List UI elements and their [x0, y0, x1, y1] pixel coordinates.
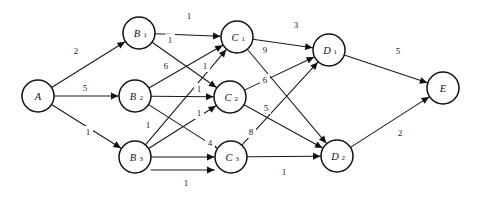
arrowhead-B1-to-C2 — [208, 80, 216, 87]
arrowhead-A-to-B3 — [113, 141, 121, 148]
node-subscript-D2: 2 — [342, 154, 346, 162]
edge-weight-B3-to-C1: 1 — [203, 61, 208, 71]
node-label-B2: B — [130, 91, 137, 102]
node-label-B1: B — [134, 28, 141, 39]
node-label-B3: B — [130, 152, 137, 163]
node-label-E: E — [439, 83, 447, 94]
edge-weight-B1-to-C1: 1 — [187, 11, 192, 21]
edge-weight-D2-to-E: 2 — [398, 128, 403, 138]
node-B2[interactable]: B2 — [119, 80, 151, 112]
node-label-A: A — [34, 91, 42, 102]
edge-weight-A-to-B3: 1 — [86, 127, 91, 137]
edge-weight-B2-to-C1: 6 — [164, 61, 169, 71]
node-subscript-C3: 3 — [236, 155, 240, 163]
edge-D2-to-E — [350, 97, 429, 147]
arrowhead-B3-to-C3 — [207, 154, 215, 161]
arrowhead-A-to-B2 — [111, 93, 119, 100]
edge-C2-to-D1 — [244, 57, 314, 90]
arrowhead-D1-to-E — [419, 77, 427, 83]
node-C2[interactable]: C2 — [214, 81, 246, 113]
edge-weight-C1-to-D1: 3 — [294, 20, 299, 30]
arrowhead-A-to-B1 — [117, 42, 125, 49]
network-diagram: 25111611114139658152 AB1B2B3C1C2C3D1D2E — [0, 0, 477, 197]
edge-A-to-B1 — [52, 42, 125, 88]
edge-weight-C2-to-D2: 5 — [264, 103, 269, 113]
edge-weight-C3-to-D1: 8 — [249, 127, 254, 137]
edge-weight-B1-to-C2: 1 — [168, 35, 173, 45]
edge-weight-A-to-B1: 2 — [74, 46, 79, 56]
edge-weight-C2-to-D1: 6 — [263, 75, 268, 85]
edge-D1-to-E — [344, 55, 427, 83]
arrowhead-B2-to-C2 — [206, 93, 214, 100]
edge-C3-to-D2 — [247, 156, 321, 157]
edge-weight-D1-to-E: 5 — [396, 46, 401, 56]
node-label-D1: D — [322, 45, 331, 56]
node-subscript-B3: 3 — [140, 155, 144, 163]
edge-weight-B2-to-C2: 1 — [197, 84, 202, 94]
node-C3[interactable]: C3 — [215, 141, 247, 173]
node-subscript-C2: 2 — [235, 95, 239, 103]
node-label-D2: D — [330, 151, 339, 162]
node-D1[interactable]: D1 — [313, 34, 345, 66]
node-B1[interactable]: B1 — [123, 17, 155, 49]
node-subscript-D1: 1 — [334, 48, 338, 56]
node-subscript-B1: 1 — [144, 31, 148, 39]
nodes-layer: AB1B2B3C1C2C3D1D2E — [22, 17, 459, 173]
node-subscript-C1: 1 — [242, 35, 246, 43]
arrowhead-C3-to-D2 — [313, 153, 321, 160]
arrowhead-B3-to-C3 — [207, 167, 215, 174]
arrowhead-B1-to-C1 — [213, 33, 221, 40]
edge-B2-to-C2 — [151, 96, 214, 97]
node-subscript-B2: 2 — [140, 94, 144, 102]
edge-weight-B3-to-C2: 1 — [197, 108, 202, 118]
arrowhead-B2-to-C1 — [215, 45, 223, 52]
node-C1[interactable]: C1 — [221, 21, 253, 53]
edge-weight-C3-to-D2: 1 — [282, 167, 287, 177]
edge-weight-C1-to-D2: 9 — [263, 45, 268, 55]
edge-weight-A-to-B2: 5 — [83, 83, 88, 93]
edge-weight-B3-to-C3: 1 — [184, 178, 189, 188]
arrowhead-B3-to-C2 — [208, 106, 216, 113]
node-label-C3: C — [225, 152, 233, 163]
edge-B1-to-C1 — [155, 34, 221, 37]
arrowhead-D2-to-E — [421, 97, 429, 104]
node-B3[interactable]: B3 — [119, 141, 151, 173]
network-graph-canvas: 25111611114139658152 AB1B2B3C1C2C3D1D2E — [0, 0, 477, 197]
arrowhead-C1-to-D1 — [305, 43, 313, 50]
node-E[interactable]: E — [427, 72, 459, 104]
node-label-C2: C — [224, 92, 232, 103]
node-A[interactable]: A — [22, 80, 54, 112]
node-label-C1: C — [231, 32, 239, 43]
edge-weight-B2-to-C3: 1 — [146, 120, 151, 130]
node-D2[interactable]: D2 — [321, 140, 353, 172]
edge-weight-B3-to-C3: 4 — [208, 138, 213, 148]
